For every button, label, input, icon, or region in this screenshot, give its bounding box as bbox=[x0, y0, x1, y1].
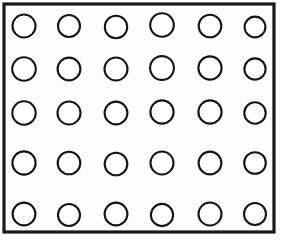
grid-circle-r2-c6 bbox=[244, 58, 265, 79]
grid-circle-r4-c3 bbox=[105, 153, 128, 176]
grid-circle-r4-c4 bbox=[151, 152, 174, 175]
grid-circle-r2-c5 bbox=[198, 56, 221, 79]
grid-circle-r1-c4 bbox=[150, 13, 174, 37]
grid-circle-r3-c1 bbox=[12, 101, 35, 124]
grid-circle-r3-c6 bbox=[244, 102, 265, 123]
grid-circle-r5-c3 bbox=[105, 203, 128, 226]
grid-circle-r3-c3 bbox=[105, 102, 128, 125]
grid-circle-r2-c4 bbox=[150, 56, 174, 80]
grid-circle-r3-c4 bbox=[150, 100, 173, 123]
grid-circle-r1-c1 bbox=[13, 15, 36, 38]
grid-circle-r5-c5 bbox=[199, 203, 222, 226]
grid-circle-r5-c2 bbox=[58, 204, 80, 226]
grid-circle-r4-c1 bbox=[12, 151, 35, 174]
outer-rectangle-border bbox=[4, 4, 274, 232]
grid-circle-r5-c1 bbox=[13, 203, 36, 226]
grid-circle-r1-c5 bbox=[199, 15, 222, 38]
circle-grid-diagram bbox=[0, 0, 283, 240]
grid-circle-r5-c6 bbox=[244, 203, 266, 225]
grid-circle-r3-c2 bbox=[58, 102, 81, 125]
grid-circle-r4-c5 bbox=[199, 152, 222, 175]
grid-circle-r1-c6 bbox=[245, 17, 266, 38]
grid-circle-r4-c6 bbox=[244, 152, 266, 174]
grid-circle-r4-c2 bbox=[58, 152, 81, 175]
grid-circle-r1-c3 bbox=[105, 16, 127, 38]
grid-circle-r2-c1 bbox=[12, 57, 36, 81]
grid-circle-r1-c2 bbox=[58, 15, 80, 37]
grid-circle-r2-c3 bbox=[105, 58, 128, 81]
figure-canvas: Grid of circles inside a rectangular fra… bbox=[0, 0, 283, 240]
grid-circle-r5-c4 bbox=[151, 204, 173, 226]
grid-circle-r2-c2 bbox=[58, 58, 81, 81]
grid-circle-r3-c5 bbox=[198, 100, 221, 123]
